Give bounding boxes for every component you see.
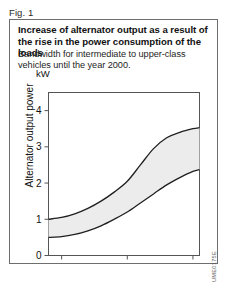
y-tick-label: 2 xyxy=(36,178,42,189)
reference-code: UME0175E xyxy=(211,251,217,282)
y-tick-label: 4 xyxy=(36,105,42,116)
chart-area: kW Alternator output power Year 01234198… xyxy=(10,68,219,263)
figure-panel: Increase of alternator output as a resul… xyxy=(9,19,218,264)
x-tick-label: 2000 xyxy=(182,262,205,264)
figure-label: Fig. 1 xyxy=(9,7,33,18)
y-tick-label: 3 xyxy=(36,141,42,152)
x-tick-label: 1990 xyxy=(116,262,139,264)
plot-canvas: 01234198019902000 xyxy=(10,68,219,263)
scan-artifact-text xyxy=(14,0,164,6)
y-tick-label: 0 xyxy=(36,250,42,261)
y-tick-label: 1 xyxy=(36,214,42,225)
x-tick-label: 1980 xyxy=(51,262,74,264)
